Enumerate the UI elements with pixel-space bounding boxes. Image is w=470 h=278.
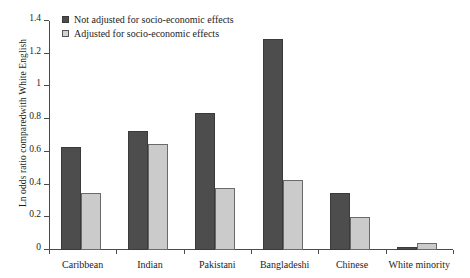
x-tick [318,250,319,254]
y-tick-label: 1.2 [29,46,41,56]
bar [61,147,81,250]
bar-group: Pakistani [184,21,251,250]
bar [283,180,303,250]
x-tick [251,250,252,254]
plot-area: 00.20.40.60.811.21.4 CaribbeanIndianPaki… [49,21,453,250]
bar-group: Bangladeshi [251,21,318,250]
legend-label-not-adjusted: Not adjusted for socio-economic effects [74,14,234,25]
bar-group: Chinese [318,21,385,250]
y-tick-label: 1 [36,78,41,88]
y-axis-title: Ln odds ratio comparedwith White English [18,8,28,238]
legend-swatch-icon-adjusted [62,30,69,37]
bar [148,144,168,250]
legend-item-adjusted: Adjusted for socio-economic effects [62,27,234,39]
x-tick [184,250,185,254]
y-tick-label: 1.4 [29,13,41,23]
bar [81,193,101,250]
bar-group: Caribbean [49,21,116,250]
y-tick-label: 0.4 [29,177,41,187]
bar-group: Indian [116,21,183,250]
bar [128,131,148,250]
bar [330,193,350,250]
bar [417,243,437,250]
bar [215,188,235,250]
x-tick [49,250,50,254]
x-tick [116,250,117,254]
legend: Not adjusted for socio-economic effects … [62,13,234,41]
legend-item-not-adjusted: Not adjusted for socio-economic effects [62,13,234,25]
x-tick [386,250,387,254]
y-tick-label: 0 [36,242,41,252]
x-tick [453,250,454,254]
y-tick-label: 0.8 [29,111,41,121]
bar [195,113,215,250]
y-tick-label: 0.2 [29,209,41,219]
bar [263,39,283,250]
y-tick-label: 0.6 [29,144,41,154]
x-axis-category-label: White minority [359,259,470,270]
legend-swatch-icon-not-adjusted [62,16,69,23]
legend-label-adjusted: Adjusted for socio-economic effects [74,28,219,39]
bar [397,247,417,250]
bar [350,217,370,250]
bar-group: White minority [386,21,453,250]
bar-chart: Ln odds ratio comparedwith White English… [0,0,470,278]
